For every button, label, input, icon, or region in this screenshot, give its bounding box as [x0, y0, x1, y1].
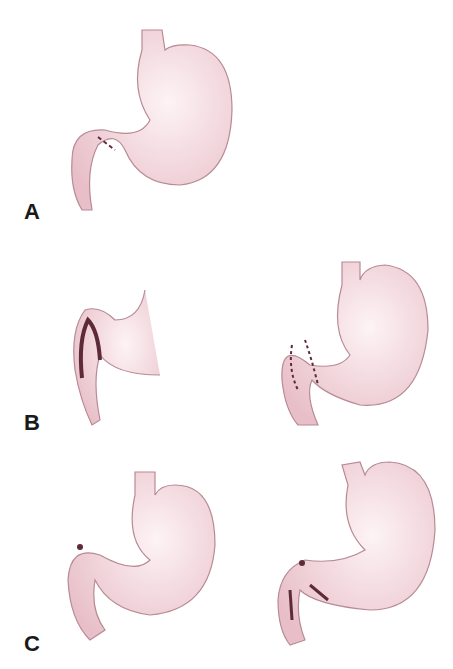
panel-label-b: B [24, 410, 40, 436]
pylorus-detail-b [74, 290, 160, 425]
stomach-a [72, 30, 232, 210]
stomach-b-right [282, 262, 428, 425]
illustration-canvas [0, 0, 453, 669]
stomach-c-right [278, 462, 435, 645]
panel-label-a: A [24, 199, 40, 225]
stomach-c-left [68, 472, 215, 640]
panel-label-c: C [24, 631, 40, 657]
